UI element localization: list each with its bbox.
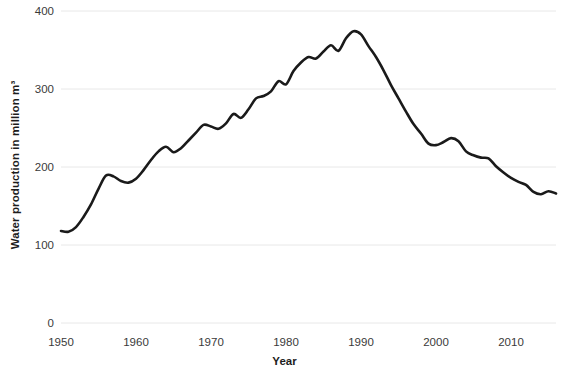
x-axis-tick-label: 1950	[31, 336, 91, 348]
data-series-line	[61, 31, 556, 232]
x-axis-tick-label: 2000	[406, 336, 466, 348]
y-axis-tick-label: 200	[16, 161, 54, 173]
gridlines-group	[0, 0, 569, 375]
y-axis-tick-label: 400	[16, 5, 54, 17]
x-axis-tick-label: 1960	[106, 336, 166, 348]
y-axis-tick-label: 300	[16, 83, 54, 95]
data-line-layer	[0, 0, 569, 375]
x-axis-tick-label: 1970	[181, 336, 241, 348]
x-axis-tick-label: 1990	[331, 336, 391, 348]
x-axis-tick-label: 1980	[256, 336, 316, 348]
chart-container: Water production in million m³ 010020030…	[0, 0, 569, 375]
x-axis-tick-label: 2010	[481, 336, 541, 348]
y-axis-tick-label: 100	[16, 239, 54, 251]
y-axis-tick-label: 0	[16, 317, 54, 329]
plot-area	[0, 0, 569, 375]
x-axis-title: Year	[0, 355, 569, 367]
